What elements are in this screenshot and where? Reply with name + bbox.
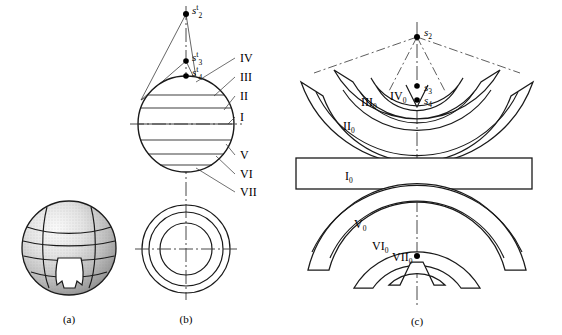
label-s2: s2 <box>424 26 432 41</box>
label-s2-prime: st2 <box>192 3 203 20</box>
apex-labels: st2 st3 st4 <box>192 3 203 82</box>
zone-label-IV: IV <box>240 51 253 65</box>
caption-b: (b) <box>180 313 193 326</box>
caption-c: (c) <box>411 315 424 328</box>
zone-numerals: IV III II I V VI VII <box>240 51 257 199</box>
figure-container: (a) <box>0 0 562 335</box>
caption-a: (a) <box>63 313 76 326</box>
band-label-VI0: VI0 <box>372 239 389 255</box>
band-label-III0: III0 <box>361 95 377 111</box>
band-label-IV0: IV0 <box>390 89 407 105</box>
sphere-shaded <box>22 201 116 295</box>
band-label-II0: II0 <box>343 119 355 135</box>
zone-label-VI: VI <box>240 167 253 181</box>
zone-label-V: V <box>240 148 249 162</box>
zone-label-VII: VII <box>240 185 257 199</box>
apex-marker-lower <box>414 253 420 259</box>
panel-c: s2 s3 s4 II0 III0 IV0 I0 <box>296 22 533 328</box>
point-labels-c: s2 s3 s4 <box>424 26 432 109</box>
zone-label-I: I <box>240 110 244 124</box>
panel-b: st2 st3 st4 IV III II I V VI <box>130 3 257 326</box>
zone-label-II: II <box>240 89 248 103</box>
panel-a: (a) <box>22 201 116 326</box>
zone-label-III: III <box>240 70 252 84</box>
